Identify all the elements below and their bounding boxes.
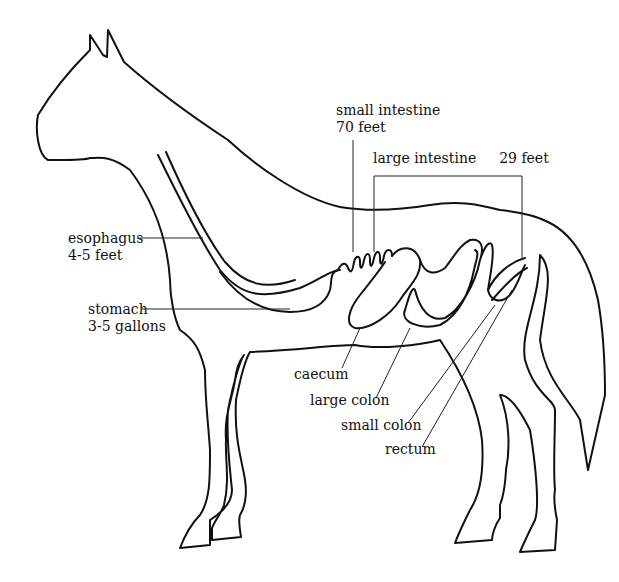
rectum-leader — [422, 290, 512, 447]
small-colon-leader — [408, 305, 495, 423]
caecum-label: caecum — [294, 366, 349, 383]
horse-outline — [37, 30, 605, 552]
large-colon-name: large colon — [310, 392, 389, 408]
small-intestine-measure: 70 feet — [336, 119, 440, 136]
caecum-name: caecum — [294, 366, 349, 382]
small-intestine-name: small intestine — [336, 102, 440, 119]
large-colon-label: large colon — [310, 392, 389, 409]
esophagus-outer — [158, 155, 340, 294]
small-intestine-coils — [338, 250, 392, 271]
esophagus-inner — [166, 152, 295, 285]
large-intestine-label: large intestine 29 feet — [373, 150, 549, 167]
rectum-name: rectum — [385, 441, 436, 457]
stomach-shape — [220, 270, 338, 312]
esophagus-name: esophagus — [68, 230, 143, 247]
large-colon-leader — [376, 328, 410, 398]
horse-digestive-diagram: small intestine 70 feet large intestine … — [0, 0, 619, 582]
small-colon-shape — [488, 258, 527, 300]
small-colon-name: small colon — [341, 417, 421, 433]
rectum-label: rectum — [385, 441, 436, 458]
diagram-drawing — [0, 0, 619, 582]
stomach-measure: 3-5 gallons — [88, 318, 166, 335]
large-intestine-name: large intestine — [373, 150, 476, 166]
stomach-name: stomach — [88, 301, 166, 318]
large-intestine-bracket — [374, 176, 522, 258]
small-colon-label: small colon — [341, 417, 421, 434]
esophagus-measure: 4-5 feet — [68, 247, 143, 264]
esophagus-label: esophagus 4-5 feet — [68, 230, 143, 264]
caecum-leader — [342, 328, 360, 368]
large-intestine-measure: 29 feet — [499, 150, 549, 166]
stomach-label: stomach 3-5 gallons — [88, 301, 166, 335]
small-intestine-label: small intestine 70 feet — [336, 102, 440, 136]
